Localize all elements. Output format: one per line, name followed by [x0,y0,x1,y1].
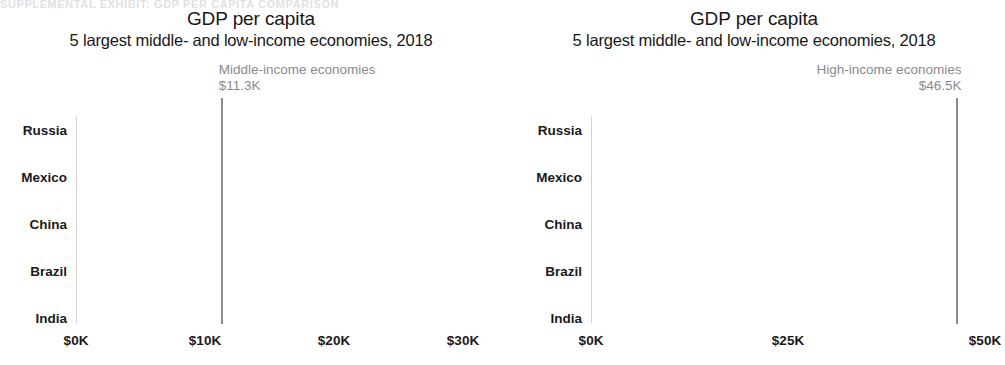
bar-row: China [591,212,727,238]
reference-line [221,98,223,324]
bar-category-label: India [35,306,67,332]
x-axis-tick-label: $0K [579,333,604,348]
bar-category-label: Mexico [536,165,582,191]
bar-row: India [76,306,162,332]
bar-row: Brazil [76,259,280,285]
x-axis-tick-label: $50K [969,333,1001,348]
bar-row: India [591,306,644,332]
bar-category-label: Mexico [21,165,67,191]
plot-area-right: RussiaMexicoChinaBrazilIndia$0K$25K$50K [503,0,1005,365]
chart-panel-left: GDP per capita 5 largest middle- and low… [0,0,502,365]
bar-row: Brazil [591,259,716,285]
bar-category-label: Russia [23,118,67,144]
bar-row: Russia [76,118,411,144]
x-axis-tick-label: $0K [64,333,89,348]
bar-category-label: Brazil [545,259,582,285]
bar-row: Mexico [591,165,738,191]
bar-category-label: Brazil [30,259,67,285]
chart-pair: GDP per capita 5 largest middle- and low… [0,0,1005,365]
bar-category-label: Russia [538,118,582,144]
x-axis-tick-label: $25K [772,333,804,348]
x-axis-tick-label: $30K [447,333,479,348]
bar-row: Mexico [76,165,316,191]
bar-category-label: China [29,212,67,238]
x-axis-tick-label: $20K [318,333,350,348]
chart-panel-right: GDP per capita 5 largest middle- and low… [503,0,1005,365]
x-axis-tick-label: $10K [189,333,221,348]
bar-row: China [76,212,298,238]
bar-category-label: China [544,212,582,238]
bar-row: Russia [591,118,796,144]
bar-category-label: India [550,306,582,332]
reference-line [956,98,958,324]
plot-area-left: RussiaMexicoChinaBrazilIndia$0K$10K$20K$… [0,0,502,365]
